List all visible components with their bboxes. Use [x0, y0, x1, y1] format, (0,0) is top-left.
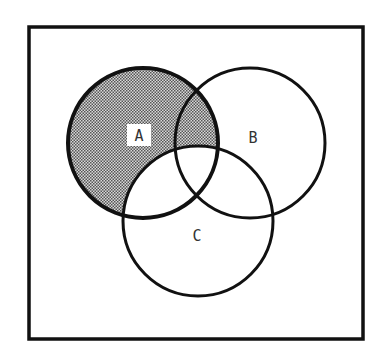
- label-c: C: [192, 227, 201, 245]
- label-a: A: [134, 127, 143, 145]
- label-b: B: [248, 129, 257, 147]
- venn-diagram: A B C: [0, 0, 384, 356]
